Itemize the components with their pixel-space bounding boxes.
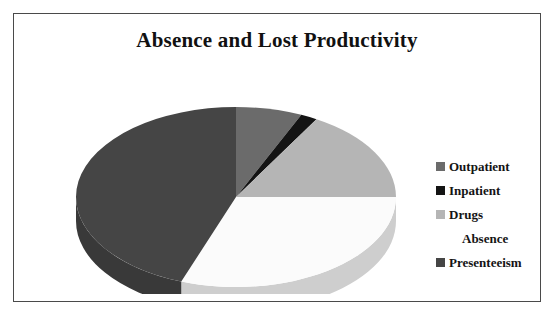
legend-item-drugs[interactable]: Drugs — [436, 202, 555, 226]
chart-legend: Outpatient Inpatient Drugs Absence Prese… — [436, 154, 555, 274]
legend-swatch-outpatient-icon — [436, 162, 445, 171]
legend-swatch-absence-icon — [436, 234, 445, 243]
legend-swatch-presenteeism-icon — [436, 258, 445, 267]
legend-label-inpatient: Inpatient — [449, 184, 500, 197]
chart-frame: Absence and Lost Productivity Outpatient — [13, 13, 541, 302]
legend-label-absence: Absence — [462, 232, 508, 245]
legend-item-presenteeism[interactable]: Presenteeism — [436, 250, 555, 274]
pie-chart-svg — [44, 79, 424, 294]
legend-item-inpatient[interactable]: Inpatient — [436, 178, 555, 202]
chart-title: Absence and Lost Productivity — [14, 28, 540, 53]
legend-item-outpatient[interactable]: Outpatient — [436, 154, 555, 178]
pie-slices-group — [76, 107, 396, 294]
legend-swatch-inpatient-icon — [436, 186, 445, 195]
legend-swatch-drugs-icon — [436, 210, 445, 219]
legend-label-presenteeism: Presenteeism — [449, 256, 522, 269]
pie-chart-plot-area — [44, 79, 424, 294]
legend-item-absence[interactable]: Absence — [436, 226, 555, 250]
legend-label-outpatient: Outpatient — [449, 160, 510, 173]
legend-label-drugs: Drugs — [449, 208, 483, 221]
